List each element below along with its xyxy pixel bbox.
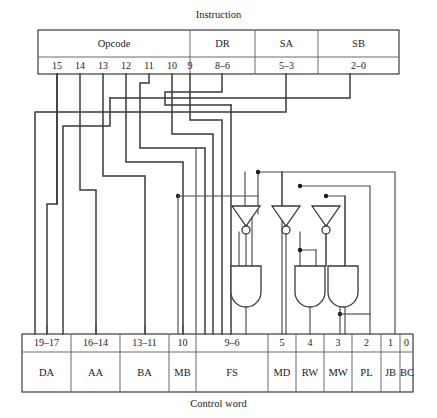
control-word-name-ba: BA	[120, 368, 169, 379]
control-word-bits-mw: 3	[324, 338, 352, 348]
control-word-bits-da: 19–17	[22, 338, 71, 348]
control-word-name-mb: MB	[169, 368, 196, 379]
inverter-fs	[232, 206, 260, 266]
control-word-bits-fs: 9–6	[196, 338, 268, 348]
instruction-decoder-diagram: .wire{stroke:#4a4a4a;stroke-width:1.15;f…	[0, 0, 437, 418]
control-word-name-rw: RW	[296, 368, 324, 379]
opcode-bit-10: 10	[162, 61, 182, 71]
instruction-field-sa: SA	[255, 39, 318, 50]
control-word-bits-bc: 0	[400, 338, 413, 348]
instruction-bits-sb: 2–0	[318, 61, 399, 71]
opcode-bit-11: 11	[139, 61, 159, 71]
instruction-field-sb: SB	[318, 39, 399, 50]
control-word-bits-rw: 4	[296, 338, 324, 348]
control-word-name-aa: AA	[71, 368, 120, 379]
control-word-caption: Control word	[0, 399, 437, 410]
opcode-bit-15: 15	[47, 61, 67, 71]
instruction-bits-dr: 8–6	[190, 61, 255, 71]
control-word-bits-pl: 2	[352, 338, 381, 348]
control-word-name-da: DA	[22, 368, 71, 379]
control-word-bits-aa: 16–14	[71, 338, 120, 348]
opcode-bit-14: 14	[70, 61, 90, 71]
control-word-tick-marks	[47, 326, 183, 334]
control-word-bits-jb: 1	[381, 338, 400, 348]
control-word-name-bc: BC	[400, 368, 413, 379]
instruction-field-dr: DR	[190, 39, 255, 50]
control-word-name-jb: JB	[381, 368, 400, 379]
instruction-field-opcode: Opcode	[38, 39, 190, 50]
and-gate-pl	[328, 266, 358, 307]
control-word-bits-md: 5	[268, 338, 296, 348]
and-gate-mw	[295, 266, 325, 307]
control-word-name-md: MD	[268, 368, 296, 379]
and-gate-fs	[231, 266, 261, 307]
control-word-name-mw: MW	[324, 368, 352, 379]
control-word-bits-mb: 10	[169, 338, 196, 348]
instruction-caption: Instruction	[0, 10, 437, 21]
instruction-bits-sa: 5–3	[255, 61, 318, 71]
control-word-bits-ba: 13–11	[120, 338, 169, 348]
control-word-name-fs: FS	[196, 368, 268, 379]
opcode-bit-12: 12	[116, 61, 136, 71]
control-word-name-pl: PL	[352, 368, 381, 379]
opcode-bit-13: 13	[93, 61, 113, 71]
